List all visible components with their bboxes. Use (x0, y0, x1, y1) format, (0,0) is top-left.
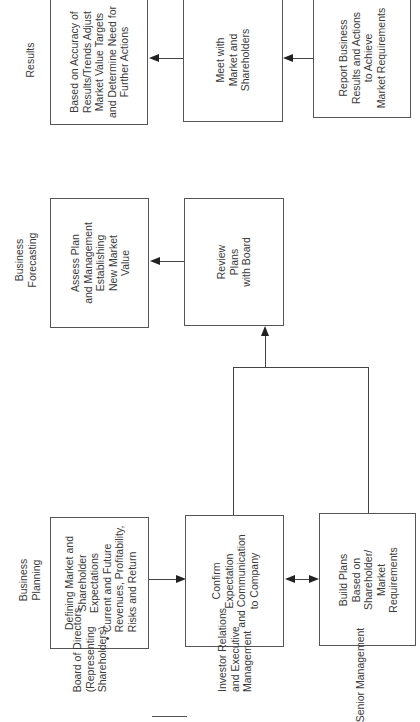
box-build-plans: Build Plans Based on Shareholder/ Market… (319, 513, 416, 646)
box-line: Based on (349, 547, 362, 612)
role-line: and Executive (229, 608, 242, 692)
box-assess-plan: Assess Plan and Management Establishing … (50, 198, 149, 328)
box-line: Review (215, 237, 228, 287)
connector-build-vertical (368, 367, 369, 513)
box-line: Shareholders (239, 29, 252, 91)
arrow-left-icon (285, 575, 295, 583)
column-header-results-text: Results (24, 42, 37, 77)
header-line: Business (13, 233, 26, 288)
role-label-senior: Senior Management (340, 630, 380, 720)
box-line: Build Plans (336, 547, 349, 612)
box-line: Shareholder/ (361, 547, 374, 612)
header-line: Planning (29, 559, 42, 602)
box-line: with Board (240, 237, 253, 287)
box-review-plans: Review Plans with Board (184, 198, 284, 326)
column-header-forecasting: Business Forecasting (10, 220, 40, 300)
connector-bracket-to-review (265, 336, 266, 367)
arrow-left-icon (150, 257, 160, 265)
box-line: and Determine Need for (105, 5, 118, 117)
box-adjust-targets: Based on Accuracy of Results/Trends Adju… (50, 0, 148, 125)
box-line: Market Value Targets (93, 5, 106, 117)
role-line: Board of Directors (71, 608, 84, 693)
box-line: Market and (227, 29, 240, 91)
connector-report-to-meet (292, 58, 313, 59)
role-line: Management (241, 608, 254, 692)
box-line: to Achieve (362, 8, 375, 108)
column-header-planning: Business Planning (14, 540, 44, 620)
box-line: New Market (106, 222, 119, 304)
box-meet-shareholders: Meet with Market and Shareholders (183, 0, 283, 122)
role-line: (Representing (84, 608, 97, 693)
arrow-left-icon (283, 54, 293, 62)
box-line: Based on Accuracy of (68, 5, 81, 117)
role-label-board: Board of Directors (Representing Shareho… (60, 580, 120, 720)
box-line: and Management (81, 222, 94, 304)
connector-bracket-horizontal (233, 367, 369, 368)
role-line: Senior Management (354, 628, 367, 722)
header-line: Business (17, 559, 30, 602)
box-line: Meet with (214, 29, 227, 91)
arrow-right-icon (176, 575, 186, 583)
box-report-results: Report Business Results and Actions to A… (313, 0, 411, 118)
box-line: Assess Plan (68, 222, 81, 304)
box-line: Results and Actions (350, 8, 363, 108)
box-line: Market (374, 547, 387, 612)
box-line: Results/Trends Adjust (80, 5, 93, 117)
box-line: Requirements (386, 547, 399, 612)
bottom-divider (152, 716, 187, 717)
box-line: Report Business (337, 8, 350, 108)
arrow-left-icon (149, 54, 159, 62)
column-header-results: Results (15, 20, 45, 100)
arrow-up-icon (261, 326, 269, 336)
connector-defining-to-confirm (149, 579, 177, 580)
box-line: Establishing (93, 222, 106, 304)
connector-confirm-vertical (233, 367, 234, 515)
box-line: Plans (228, 237, 241, 287)
box-line: Market Requirements (375, 8, 388, 108)
role-line: Investor Relations (216, 608, 229, 692)
arrow-right-icon (309, 575, 319, 583)
box-line: Value (118, 222, 131, 304)
role-label-investor: Investor Relations and Executive Managem… (205, 580, 265, 720)
connector-meet-to-results (158, 58, 183, 59)
box-line: Further Actions (118, 5, 131, 117)
header-line: Forecasting (25, 233, 38, 288)
box-line: Risks and Return (125, 526, 138, 633)
role-line: Shareholders) (96, 608, 109, 693)
connector-review-to-assess (159, 261, 184, 262)
